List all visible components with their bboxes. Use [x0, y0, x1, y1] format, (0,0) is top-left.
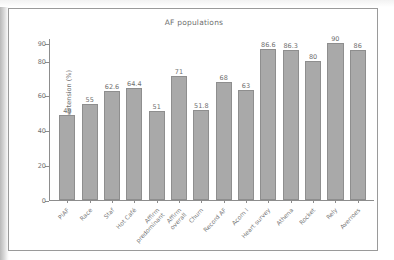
x-axis-line — [49, 200, 374, 201]
x-tick-label: Athena — [275, 207, 294, 227]
x-tick-label: Affirm overall — [164, 207, 188, 231]
x-tick-mark — [112, 200, 113, 203]
bar-value-label: 90 — [331, 35, 339, 43]
x-tick-mark — [313, 200, 314, 203]
bar-column — [350, 38, 366, 200]
bar-value-label: 64.4 — [127, 80, 141, 88]
bar-column — [104, 38, 120, 200]
x-tick-mark — [157, 200, 158, 203]
bar-value-label: 49 — [63, 107, 71, 115]
bar — [238, 90, 254, 200]
x-tick-label: Acorn I — [231, 207, 250, 227]
bar-column — [82, 38, 98, 200]
bar-value-label: 68 — [220, 74, 228, 82]
x-tick-mark — [246, 200, 247, 203]
bar-column — [305, 38, 321, 200]
bar-value-label: 63 — [242, 82, 250, 90]
x-tick-label: PIAF — [57, 207, 71, 221]
bar-value-label: 62.6 — [105, 83, 119, 91]
x-tick-mark — [358, 200, 359, 203]
x-tick-label: Record AF — [202, 207, 227, 234]
x-tick-mark — [291, 200, 292, 203]
x-tick-label: Churn — [188, 207, 205, 225]
chart-title: AF populations — [9, 18, 379, 27]
x-tick-label: Rocket — [298, 207, 317, 226]
bar — [327, 43, 343, 200]
bar-column — [327, 38, 343, 200]
x-tick-label: Race — [79, 207, 94, 222]
bar-value-label: 51 — [153, 103, 161, 111]
plot-area: Patients with hypertension (%) 020406080… — [49, 39, 374, 201]
bar-value-label: 71 — [175, 68, 183, 76]
x-tick-label: Averroes — [339, 207, 362, 231]
y-tick-label: 20 — [38, 162, 46, 170]
x-tick-mark — [90, 200, 91, 203]
chart-figure: AF populations Patients with hypertensio… — [8, 8, 378, 251]
bar — [171, 76, 187, 200]
y-axis-line — [49, 39, 50, 201]
x-tick-mark — [179, 200, 180, 203]
bar-value-label: 86 — [354, 42, 362, 50]
x-tick-label: Hot Café — [115, 207, 138, 231]
y-tick-label: 0 — [42, 197, 46, 205]
bar-value-label: 86.6 — [261, 41, 275, 49]
bar-column — [260, 38, 276, 200]
scan-top-shadow — [0, 0, 394, 7]
bar-value-label: 51.8 — [194, 102, 208, 110]
x-tick-label: Rely — [326, 207, 340, 221]
bar — [126, 88, 142, 200]
bar-value-label: 80 — [309, 53, 317, 61]
bar-column — [126, 38, 142, 200]
x-tick-mark — [134, 200, 135, 203]
bar-column — [238, 38, 254, 200]
bar-column — [149, 38, 165, 200]
bar-value-label: 86.3 — [283, 42, 297, 50]
bar — [59, 115, 75, 200]
x-tick-mark — [268, 200, 269, 203]
bar — [350, 50, 366, 200]
bar-column — [283, 38, 299, 200]
bar — [149, 111, 165, 200]
bar — [82, 104, 98, 200]
y-tick-label: 40 — [38, 127, 46, 135]
bar-value-label: 55 — [86, 96, 94, 104]
y-tick-label: 80 — [38, 58, 46, 66]
bar — [283, 50, 299, 200]
bar-column — [193, 38, 209, 200]
bar — [104, 91, 120, 200]
bar — [260, 49, 276, 200]
x-tick-mark — [224, 200, 225, 203]
x-tick-mark — [67, 200, 68, 203]
bar-column — [59, 38, 75, 200]
bar-column — [216, 38, 232, 200]
x-tick-label: Staf — [103, 207, 116, 220]
bar — [216, 82, 232, 200]
x-tick-mark — [335, 200, 336, 203]
bar-column — [171, 38, 187, 200]
bar — [193, 110, 209, 200]
x-tick-mark — [201, 200, 202, 203]
y-tick-label: 60 — [38, 92, 46, 100]
y-tick-label: 90 — [38, 40, 46, 48]
bar — [305, 61, 321, 200]
